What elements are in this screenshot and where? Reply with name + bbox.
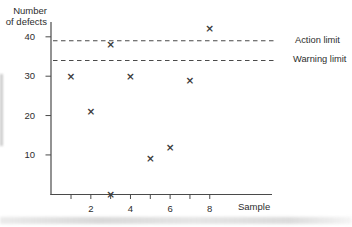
data-point-marker: ×: [106, 188, 115, 200]
scan-shadow-artifact: [0, 217, 352, 224]
action-limit-label: Action limit: [295, 35, 340, 45]
warning-limit-label: Warning limit: [293, 54, 346, 64]
x-axis-tick-label: 6: [167, 203, 172, 214]
x-axis-tick-label: 2: [88, 203, 93, 214]
data-point-marker: ×: [106, 38, 115, 50]
x-axis-tick-label: 4: [128, 203, 133, 214]
data-point-marker: ×: [126, 70, 135, 82]
y-axis-tick-label: 10: [24, 149, 35, 160]
scan-edge-artifact: [0, 74, 3, 146]
defects-control-chart-figure: Number of defects 403020102468××××××××× …: [0, 0, 352, 227]
y-axis-tick-label: 40: [24, 31, 35, 42]
y-axis-tick-label: 20: [24, 110, 35, 121]
x-axis-tick-label: 8: [207, 203, 212, 214]
data-point-marker: ×: [186, 74, 195, 86]
data-point-marker: ×: [146, 152, 155, 164]
y-axis-tick-label: 30: [24, 70, 35, 81]
x-axis-title: Sample: [238, 201, 270, 212]
data-point-marker: ×: [205, 22, 214, 34]
data-point-marker: ×: [67, 70, 76, 82]
data-point-marker: ×: [86, 105, 95, 117]
data-point-marker: ×: [166, 141, 175, 153]
